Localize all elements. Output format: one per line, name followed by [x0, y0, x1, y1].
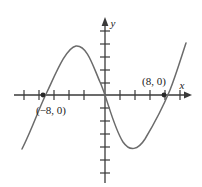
right-intercept-label: (8, 0) — [142, 75, 166, 88]
right-intercept-point — [162, 93, 167, 98]
cubic-curve — [22, 43, 186, 149]
y-axis-arrow-icon — [102, 17, 109, 26]
plot-canvas: x y (−8, 0) (8, 0) — [0, 0, 202, 187]
y-axis-label: y — [110, 17, 116, 29]
x-axis-label: x — [179, 79, 185, 91]
x-axis-arrow-icon — [184, 92, 192, 99]
left-intercept-label: (−8, 0) — [36, 104, 66, 117]
left-intercept-point — [41, 93, 46, 98]
graph-figure: x y (−8, 0) (8, 0) — [0, 0, 202, 187]
